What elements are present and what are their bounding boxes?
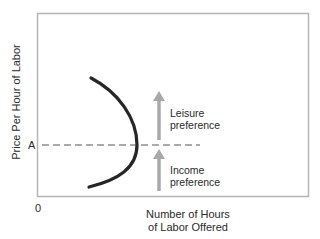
leisure-label-line1: Leisure [170, 107, 220, 119]
x-axis-label-line1: Number of Hours [128, 208, 248, 221]
income-label-line2: preference [170, 176, 220, 188]
price-level-label: A [28, 139, 35, 151]
income-preference-arrow-icon [153, 149, 165, 191]
leisure-preference-arrow-icon [153, 91, 165, 140]
x-axis-label: Number of Hours of Labor Offered [128, 208, 248, 233]
x-axis-label-line2: of Labor Offered [128, 221, 248, 234]
income-preference-label: Income preference [170, 164, 220, 188]
leisure-preference-label: Leisure preference [170, 107, 220, 131]
y-axis-label: Price Per Hour of Labor [10, 32, 22, 172]
backward-bending-supply-curve [89, 78, 137, 187]
income-label-line1: Income [170, 164, 220, 176]
diagram-canvas [0, 0, 320, 239]
origin-label: 0 [35, 202, 41, 214]
leisure-label-line2: preference [170, 119, 220, 131]
